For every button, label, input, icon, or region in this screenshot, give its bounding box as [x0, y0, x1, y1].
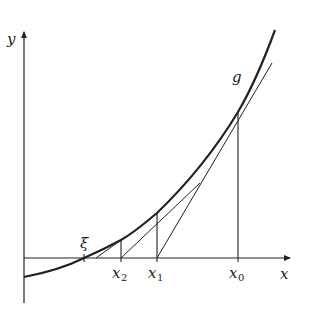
svg-text:x: x: [112, 264, 121, 282]
curve-label-g: g: [232, 68, 242, 86]
y-axis-label: y: [6, 30, 16, 48]
svg-text:2: 2: [121, 272, 127, 283]
svg-text:1: 1: [157, 272, 163, 283]
svg-text:0: 0: [238, 272, 244, 283]
svg-text:x: x: [148, 264, 157, 282]
point-label-x1: x 1: [148, 264, 163, 283]
root-label-xi: ξ: [80, 234, 89, 252]
tangent-line-x2: [96, 240, 121, 258]
x-axis-label: x: [280, 265, 289, 283]
newton-method-diagram: y x g ξ x 2 x 1 x 0: [0, 0, 309, 319]
tangent-line-x0: [157, 63, 272, 258]
point-label-x2: x 2: [112, 264, 127, 283]
svg-text:x: x: [229, 264, 238, 282]
point-label-x0: x 0: [229, 264, 244, 283]
tangent-line-x1: [121, 183, 200, 258]
